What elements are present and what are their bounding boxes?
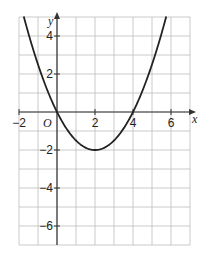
y-tick-label: 4 xyxy=(46,29,53,43)
parabola-graph: −224642−2−4−6 x y O xyxy=(0,0,200,255)
y-axis-arrow-icon xyxy=(54,12,60,19)
x-tick-label: −2 xyxy=(12,116,26,130)
y-tick-label: −4 xyxy=(39,181,53,195)
y-axis-label: y xyxy=(47,14,54,28)
y-tick-label: 2 xyxy=(46,67,53,81)
origin-label: O xyxy=(43,116,52,130)
y-tick-label: −6 xyxy=(39,219,53,233)
grid xyxy=(19,17,190,245)
x-tick-label: 2 xyxy=(92,116,99,130)
y-tick-label: −2 xyxy=(39,143,53,157)
x-axis-label: x xyxy=(191,112,198,126)
x-tick-label: 6 xyxy=(168,116,175,130)
